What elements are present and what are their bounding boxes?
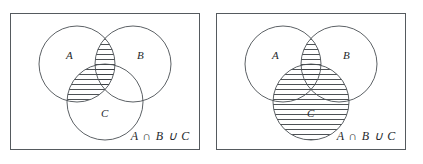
label-b: B [137, 49, 144, 61]
caption-left: A ∩ B ∪ C [131, 129, 190, 144]
venn-panel-right: A B C A ∩ B ∪ C [216, 13, 406, 150]
label-c: C [101, 107, 109, 119]
label-a: A [65, 49, 73, 61]
label-b: B [343, 49, 350, 61]
label-a: A [271, 49, 279, 61]
caption-right: A ∩ B ∪ C [337, 129, 396, 144]
venn-panel-left: A B C A ∩ B ∪ C [10, 13, 200, 150]
label-c: C [307, 107, 315, 119]
venn-diagram-figure: A B C A ∩ B ∪ C A B [0, 0, 423, 164]
